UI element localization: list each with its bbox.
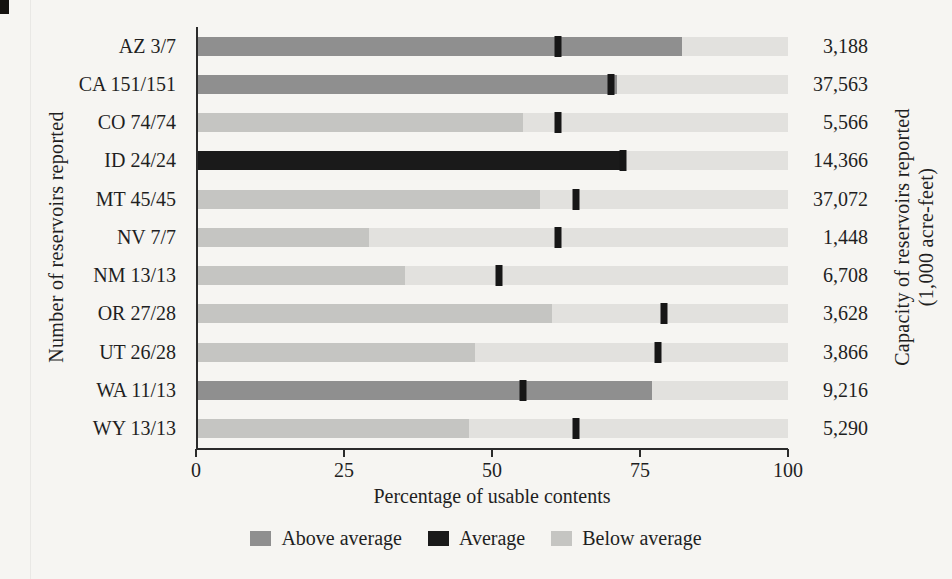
state-label: NM 13/13: [0, 257, 186, 295]
capacity-value: 9,216: [786, 371, 868, 409]
state-label: CA 151/151: [0, 65, 186, 103]
x-tick-label: 25: [334, 459, 354, 482]
right-axis-title: Capacity of reservoirs reported (1,000 a…: [891, 108, 938, 366]
capacity-value: 5,290: [786, 410, 868, 448]
x-tick-label: 50: [482, 459, 502, 482]
x-tick-mark: [639, 449, 641, 457]
average-tick: [495, 265, 502, 286]
bar-track: [198, 419, 788, 438]
capacity-value: 14,366: [786, 142, 868, 180]
state-label: CO 74/74: [0, 104, 186, 142]
right-axis-title-line2: (1,000 acre-feet): [915, 108, 939, 366]
state-label: UT 26/28: [0, 333, 186, 371]
legend-item: Average: [428, 527, 525, 550]
bar-fill: [198, 419, 469, 438]
average-tick: [619, 150, 626, 171]
bar-row: [198, 180, 788, 218]
bar-fill: [198, 75, 617, 94]
bar-row: [198, 65, 788, 103]
reservoir-chart-figure: Number of reservoirs reported AZ 3/7CA 1…: [0, 0, 952, 579]
average-tick: [655, 342, 662, 363]
bar-row: [198, 410, 788, 448]
bar-track: [198, 266, 788, 285]
right-axis-title-line1: Capacity of reservoirs reported: [891, 108, 915, 366]
capacity-value: 5,566: [786, 104, 868, 142]
state-label: AZ 3/7: [0, 27, 186, 65]
legend-swatch-average: [428, 531, 449, 546]
bar-track: [198, 190, 788, 209]
x-tick-label: 75: [630, 459, 650, 482]
bar-track: [198, 151, 788, 170]
x-tick-label: 0: [191, 459, 201, 482]
bar-fill: [198, 151, 623, 170]
bar-row: [198, 218, 788, 256]
capacity-value: 3,866: [786, 333, 868, 371]
bar-row: [198, 27, 788, 65]
bar-fill: [198, 113, 523, 132]
bar-fill: [198, 343, 475, 362]
bar-fill: [198, 304, 552, 323]
scan-corner-artifact: [0, 0, 9, 14]
bar-track: [198, 75, 788, 94]
legend-label: Above average: [281, 527, 402, 550]
capacity-value: 37,563: [786, 65, 868, 103]
bar-track: [198, 304, 788, 323]
state-labels-column: AZ 3/7CA 151/151CO 74/74ID 24/24MT 45/45…: [0, 27, 186, 448]
average-tick: [572, 189, 579, 210]
bar-track: [198, 381, 788, 400]
state-label: WA 11/13: [0, 371, 186, 409]
legend-swatch-below: [551, 531, 572, 546]
bar-fill: [198, 228, 369, 247]
capacity-value: 1,448: [786, 218, 868, 256]
average-tick: [661, 303, 668, 324]
capacity-value: 3,628: [786, 295, 868, 333]
average-tick: [608, 74, 615, 95]
bar-row: [198, 295, 788, 333]
capacity-values-column: 3,18837,5635,56614,36637,0721,4486,7083,…: [786, 27, 868, 448]
x-tick-mark: [195, 449, 197, 457]
bar-row: [198, 257, 788, 295]
state-label: NV 7/7: [0, 218, 186, 256]
x-tick-mark: [343, 449, 345, 457]
x-axis-title: Percentage of usable contents: [196, 485, 788, 508]
x-tick-mark: [787, 449, 789, 457]
state-label: ID 24/24: [0, 142, 186, 180]
legend: Above averageAverageBelow average: [0, 527, 952, 550]
bar-fill: [198, 266, 405, 285]
legend-label: Average: [459, 527, 525, 550]
legend-item: Below average: [551, 527, 701, 550]
capacity-value: 37,072: [786, 180, 868, 218]
bar-track: [198, 37, 788, 56]
x-axis-ticks: 0255075100: [196, 449, 788, 485]
bar-track: [198, 228, 788, 247]
bar-row: [198, 371, 788, 409]
average-tick: [572, 418, 579, 439]
bar-fill: [198, 190, 540, 209]
legend-swatch-above: [250, 531, 271, 546]
legend-item: Above average: [250, 527, 402, 550]
bar-fill: [198, 381, 652, 400]
legend-label: Below average: [582, 527, 701, 550]
state-label: WY 13/13: [0, 410, 186, 448]
average-tick: [554, 112, 561, 133]
average-tick: [554, 227, 561, 248]
average-tick: [554, 36, 561, 57]
state-label: OR 27/28: [0, 295, 186, 333]
x-tick-mark: [491, 449, 493, 457]
capacity-value: 6,708: [786, 257, 868, 295]
bar-row: [198, 142, 788, 180]
bar-row: [198, 104, 788, 142]
bar-row: [198, 333, 788, 371]
bar-fill: [198, 37, 682, 56]
state-label: MT 45/45: [0, 180, 186, 218]
capacity-value: 3,188: [786, 27, 868, 65]
bar-track: [198, 113, 788, 132]
average-tick: [519, 380, 526, 401]
bar-track: [198, 343, 788, 362]
plot-area: [196, 27, 788, 450]
x-tick-label: 100: [773, 459, 803, 482]
